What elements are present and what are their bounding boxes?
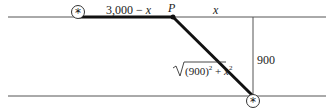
end-star-icon: * [247, 95, 260, 109]
svg-text:*: * [250, 95, 256, 109]
water-path [173, 17, 253, 96]
label-left-segment: 3,000 − x [106, 4, 151, 16]
label-hypotenuse: (900)2 + x2 [185, 65, 232, 77]
label-vertical-distance: 900 [257, 54, 275, 66]
label-point-p: P [168, 2, 175, 14]
label-right-segment: x [213, 4, 218, 16]
point-p-dot [171, 15, 176, 20]
svg-text:*: * [75, 6, 81, 20]
diagram-canvas: * * [0, 0, 333, 112]
